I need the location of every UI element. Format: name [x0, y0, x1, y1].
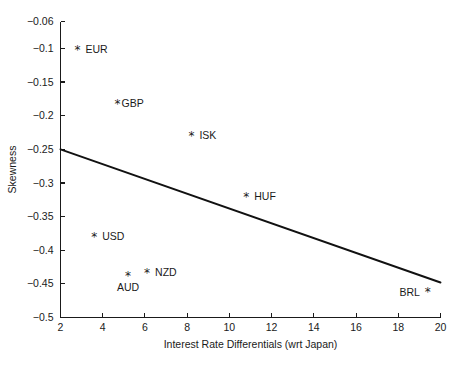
axis-titles-group: Interest Rate Differentials (wrt Japan)S… [6, 146, 337, 350]
x-axis-tick-label: 6 [142, 321, 148, 333]
chart-figure: 2468101214161820−0.06−0.1−0.15−0.2−0.25−… [0, 0, 452, 368]
x-axis-tick-label: 8 [184, 321, 190, 333]
x-axis-tick-label: 18 [392, 321, 404, 333]
data-point-marker-huf: * [243, 190, 249, 204]
data-point-label-aud: AUD [117, 281, 140, 293]
x-axis-tick-label: 4 [100, 321, 106, 333]
y-axis-tick-label: −0.15 [27, 76, 54, 88]
y-axis-tick-label: −0.06 [27, 15, 54, 27]
data-point-marker-nzd: * [144, 266, 150, 280]
x-axis-tick-label: 16 [350, 321, 362, 333]
data-point-label-huf: HUF [254, 190, 276, 202]
plot-axes: 2468101214161820−0.06−0.1−0.15−0.2−0.25−… [27, 15, 447, 332]
regression-fit-line [61, 149, 441, 282]
x-axis-title: Interest Rate Differentials (wrt Japan) [164, 338, 338, 350]
data-point-marker-gbp: * [115, 97, 121, 111]
data-point-label-nzd: NZD [155, 266, 177, 278]
data-point-label-usd: USD [102, 230, 125, 242]
y-axis-tick-label: −0.3 [33, 177, 54, 189]
x-axis-tick-label: 10 [224, 321, 236, 333]
data-point-marker-isk: * [188, 129, 194, 143]
data-point-label-gbp: GBP [122, 97, 144, 109]
y-axis-tick-label: −0.1 [33, 42, 54, 54]
scatter-plot-svg: 2468101214161820−0.06−0.1−0.15−0.2−0.25−… [0, 0, 452, 368]
y-axis-tick-label: −0.2 [33, 109, 54, 121]
y-axis-tick-label: −0.35 [27, 210, 54, 222]
x-axis-tick-label: 20 [435, 321, 447, 333]
x-axis-tick-label: 14 [308, 321, 320, 333]
data-point-label-isk: ISK [199, 129, 216, 141]
x-axis-tick-label: 2 [58, 321, 64, 333]
y-axis-tick-label: −0.25 [27, 143, 54, 155]
x-axis-tick-label: 12 [266, 321, 278, 333]
data-point-label-brl: BRL [399, 286, 420, 298]
y-axis-tick-label: −0.4 [33, 244, 54, 256]
regression-line [61, 149, 441, 282]
data-point-marker-brl: * [425, 285, 431, 299]
y-axis-title: Skewness [6, 146, 18, 194]
y-axis-tick-label: −0.45 [27, 277, 54, 289]
data-point-marker-eur: * [74, 43, 80, 57]
data-point-marker-usd: * [91, 230, 97, 244]
y-axis-tick-label: −0.5 [33, 311, 54, 323]
data-point-label-eur: EUR [85, 43, 108, 55]
